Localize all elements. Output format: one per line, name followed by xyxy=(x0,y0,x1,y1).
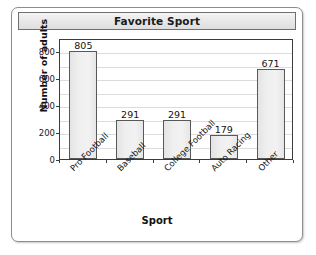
plot-area: 805291291179671 0200400600800 Pro Footba… xyxy=(59,39,293,160)
screenshot-root: Favorite Sport Number of adults 80529129… xyxy=(0,0,316,255)
bar-slot xyxy=(107,40,154,159)
page-title: Favorite Sport xyxy=(114,15,200,27)
y-tick-mark xyxy=(56,79,59,80)
x-tick-mark xyxy=(199,160,200,163)
y-tick-label: 800 xyxy=(21,47,55,57)
x-tick-mark xyxy=(106,160,107,163)
x-tick-mark xyxy=(293,160,294,163)
y-tick-label: 0 xyxy=(21,155,55,165)
x-tick-mark xyxy=(59,160,60,163)
chart-title-bar: Favorite Sport xyxy=(18,12,296,30)
y-tick-mark xyxy=(56,133,59,134)
bar-value-label: 291 xyxy=(168,109,186,120)
chart-card: Favorite Sport Number of adults 80529129… xyxy=(11,7,303,242)
bar-value-label: 671 xyxy=(262,58,280,69)
y-tick-label: 600 xyxy=(21,74,55,84)
x-tick-mark xyxy=(246,160,247,163)
x-tick-mark xyxy=(153,160,154,163)
bar[interactable] xyxy=(257,69,285,159)
bar-value-label: 805 xyxy=(74,40,92,51)
bar-value-label: 291 xyxy=(121,109,139,120)
y-tick-mark xyxy=(56,52,59,53)
bar-value-label: 179 xyxy=(215,124,233,135)
y-tick-mark xyxy=(56,106,59,107)
y-tick-label: 200 xyxy=(21,128,55,138)
y-tick-label: 400 xyxy=(21,101,55,111)
x-axis-title: Sport xyxy=(12,215,302,226)
